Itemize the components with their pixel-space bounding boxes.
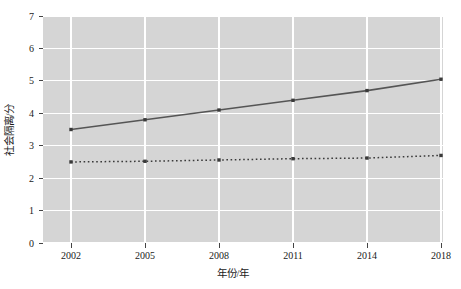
data-point-marker — [143, 160, 146, 163]
x-axis-title: 年份/年 — [217, 267, 250, 279]
data-point-marker — [439, 78, 442, 81]
y-tick-label: 2 — [29, 173, 34, 184]
data-point-marker — [69, 160, 72, 163]
y-tick-label: 3 — [29, 140, 34, 151]
data-point-marker — [365, 89, 368, 92]
data-point-marker — [291, 157, 294, 160]
data-point-marker — [365, 156, 368, 159]
line-chart-figure: 7 6 5 4 3 2 1 0 2002 2005 2008 2011 2014… — [0, 0, 461, 289]
data-point-marker — [217, 158, 220, 161]
y-tick-label: 0 — [29, 238, 34, 249]
data-point-marker — [291, 99, 294, 102]
chart-container: 7 6 5 4 3 2 1 0 2002 2005 2008 2011 2014… — [0, 0, 461, 289]
y-tick-label: 4 — [29, 108, 34, 119]
data-point-marker — [69, 128, 72, 131]
y-tick-label: 6 — [29, 43, 34, 54]
data-point-marker — [439, 154, 442, 157]
y-tick-label: 5 — [29, 75, 34, 86]
x-tick-label: 2018 — [431, 250, 451, 261]
data-point-marker — [217, 108, 220, 111]
x-tick-label: 2014 — [357, 250, 377, 261]
y-axis-title: 社会隔离/分 — [3, 103, 15, 157]
x-tick-label: 2005 — [135, 250, 155, 261]
y-tick-label: 7 — [29, 11, 34, 22]
y-tick-label: 1 — [29, 205, 34, 216]
x-tick-label: 2008 — [209, 250, 229, 261]
data-point-marker — [143, 118, 146, 121]
x-tick-label: 2002 — [61, 250, 81, 261]
x-tick-label: 2011 — [283, 250, 303, 261]
plot-area-background — [43, 16, 443, 243]
